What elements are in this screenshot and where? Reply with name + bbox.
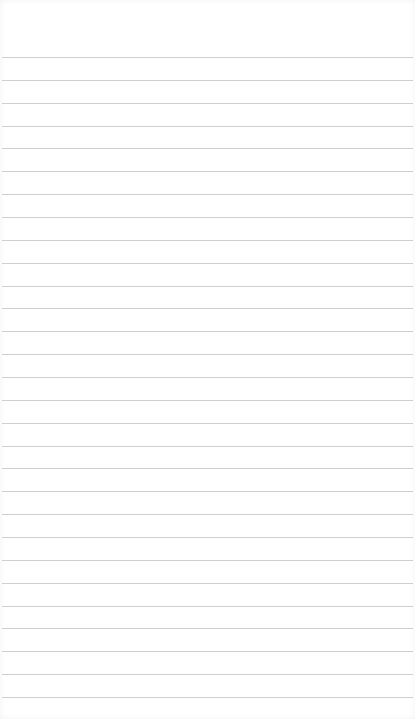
notepad-page	[0, 0, 415, 719]
note-text-area[interactable]	[0, 0, 415, 719]
